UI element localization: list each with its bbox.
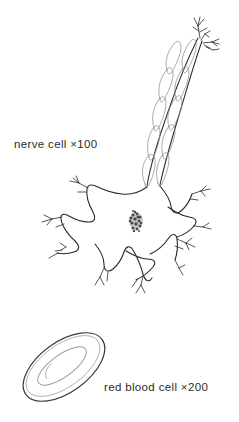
red-blood-cell-figure [11, 319, 116, 415]
red-blood-cell-label: red blood cell ×200 [104, 382, 208, 394]
dendrites [42, 176, 211, 293]
soma [57, 185, 196, 281]
nerve-cell-label: nerve cell ×100 [14, 139, 98, 151]
axon-terminal [193, 17, 219, 50]
myelin-sheath-segments [142, 39, 196, 187]
nucleus [129, 210, 143, 232]
nerve-cell-figure [42, 17, 219, 293]
rbc-outer-membrane [11, 319, 116, 415]
cell-diagram-canvas [0, 0, 239, 422]
